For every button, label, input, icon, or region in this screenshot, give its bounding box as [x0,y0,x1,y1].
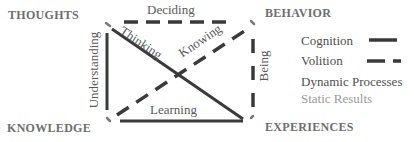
corner-label-thoughts: THOUGHTS [8,8,79,23]
legend-cognition-label: Cognition [301,33,353,49]
diagram: THOUGHTS BEHAVIOR KNOWLEDGE EXPERIENCES … [0,0,414,142]
legend-static-label: Static Results [301,91,372,107]
edge-label-being: Being [256,50,272,81]
corner-dot-knowledge [107,118,110,121]
legend-volition-label: Volition [301,53,343,69]
corner-dot-behavior [251,21,254,24]
legend-dynamic-label: Dynamic Processes [301,74,402,90]
edge-label-deciding: Deciding [147,2,195,18]
corner-label-behavior: BEHAVIOR [265,6,331,21]
corner-label-knowledge: KNOWLEDGE [7,121,91,136]
corner-dot-experiences [251,116,253,118]
corner-label-experiences: EXPERIENCES [265,120,354,135]
edge-label-understanding: Understanding [86,32,102,109]
edge-label-learning: Learning [150,102,197,118]
corner-dot-thoughts [106,23,110,26]
